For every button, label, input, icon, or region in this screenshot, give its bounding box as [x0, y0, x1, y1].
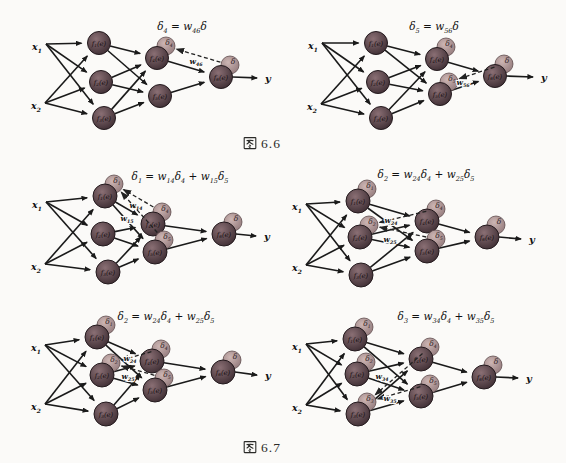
connection-arrow [45, 404, 88, 411]
neuron-label: f1(e) [97, 193, 113, 202]
weight-label: w14 [130, 201, 143, 211]
hanzi-tu-icon [243, 136, 257, 150]
neuron-f6: f6(e)δ [484, 55, 514, 88]
neuron-label: f5(e) [413, 393, 429, 402]
diagram-delta3-backprop: yf1(e)δ1f2(e)δ2f3(e)δ3f4(e)δ4f5(e)δ5f6(e… [286, 304, 558, 444]
neuron-f1: f1(e)δ1 [346, 180, 376, 213]
connection-arrow [115, 228, 136, 232]
neuron-f2: f2(e) [367, 71, 390, 94]
connection-arrow [306, 265, 343, 272]
scanned-textbook-page: yf1(e)f2(e)f3(e)f4(e)δ4f5(e)f6(e)δw46δ4 … [0, 0, 566, 463]
connection-arrow [448, 62, 478, 71]
connection-arrow [385, 50, 426, 83]
neuron-label: f6(e) [216, 231, 232, 240]
network-diagram-delta4: yf1(e)f2(e)f3(e)f4(e)δ4f5(e)f6(e)δw46δ4 … [14, 4, 276, 134]
neuron-label: f4(e) [144, 358, 160, 367]
weight-label: w24 [124, 354, 137, 364]
input-label-x2: x2 [306, 101, 317, 114]
connection-arrow [306, 344, 347, 400]
neuron-label: f5(e) [147, 249, 163, 258]
connection-arrow [45, 264, 90, 270]
neuron-f6: f6(e)δ [472, 356, 502, 389]
network-diagram-delta5: yf1(e)f2(e)f3(e)f4(e)δ4f5(e)δ5f6(e)δw56δ… [291, 4, 553, 134]
network-diagram-delta1: yf1(e)δ1f2(e)f3(e)f4(e)δ4f5(e)δ5f6(e)δw1… [8, 164, 280, 304]
input-label-x2: x2 [30, 261, 41, 274]
backprop-weight-arrow [177, 49, 221, 62]
connection-arrow [164, 363, 205, 369]
neuron-f2: f2(e)δ2 [345, 353, 375, 386]
connection-arrow [45, 383, 86, 404]
neuron-label: f2(e) [94, 372, 110, 381]
connection-arrow [306, 354, 344, 406]
input-label-x1: x1 [30, 342, 41, 355]
neuron-f3: f3(e) [93, 107, 116, 130]
backprop-weight-arrow [124, 190, 154, 208]
connection-arrow [110, 46, 140, 54]
figure-caption-6-7: 6.7 [197, 440, 327, 456]
diagram-delta4-backprop: yf1(e)f2(e)f3(e)f4(e)δ4f5(e)f6(e)δw46δ4 … [14, 4, 276, 134]
connection-arrow [108, 342, 136, 354]
neuron-f5: f5(e)δ5 [143, 231, 173, 264]
delta-badge-label: δ [231, 57, 236, 66]
delta-badge-label: δ [233, 352, 238, 361]
connection-arrow [306, 341, 337, 344]
delta-badge-label: δ [505, 56, 510, 65]
connection-arrow [119, 259, 138, 267]
neuron-label: f3(e) [96, 115, 112, 124]
neuron-label: f6(e) [479, 234, 495, 243]
input-label-x1: x1 [307, 40, 318, 53]
neuron-label: f1(e) [347, 336, 363, 345]
connection-arrow [117, 398, 139, 409]
neuron-label: f6(e) [215, 369, 231, 378]
input-label-x1: x1 [31, 41, 42, 54]
neuron-f3: f3(e)δ3 [346, 393, 376, 426]
connection-arrow [108, 51, 147, 85]
neuron-label: f5(e) [432, 91, 448, 100]
connection-arrow [306, 204, 350, 261]
connection-arrow [389, 84, 423, 91]
network-diagram-delta3: yf1(e)δ1f2(e)δ2f3(e)δ3f4(e)δ4f5(e)δ5f6(e… [286, 304, 558, 444]
neuron-f2: f2(e) [90, 71, 113, 94]
figure-caption-number: 6.7 [261, 440, 281, 455]
neuron-label: f6(e) [213, 74, 229, 83]
weight-label: w15 [121, 214, 134, 224]
input-label-x1: x1 [291, 341, 302, 354]
neuron-label: f1(e) [368, 40, 384, 49]
neuron-f6: f6(e)δ [212, 213, 242, 246]
output-arrow [496, 377, 518, 378]
neuron-f5: f5(e)δ5 [429, 73, 459, 106]
connection-arrow [389, 65, 421, 77]
output-label: y [264, 73, 272, 84]
neuron-label: f4(e) [149, 55, 165, 64]
neuron-f1: f1(e)δ1 [343, 318, 373, 351]
connection-arrow [306, 405, 340, 411]
neuron-label: f5(e) [147, 387, 163, 396]
input-label-x2: x2 [291, 402, 302, 415]
connection-arrow [322, 43, 364, 72]
connection-arrow [45, 103, 87, 114]
diagram-delta5-backprop: yf1(e)f2(e)f3(e)f4(e)δ4f5(e)δ5f6(e)δw56δ… [291, 4, 553, 134]
neuron-f3: f3(e) [94, 402, 118, 426]
weight-label: w34 [376, 372, 389, 382]
neuron-label: f6(e) [476, 374, 492, 383]
weight-label: w25 [384, 235, 397, 245]
neuron-f4: f4(e)δ4 [409, 338, 439, 371]
connection-arrow [46, 198, 87, 202]
weight-label: w46 [190, 57, 204, 67]
output-label: y [525, 373, 533, 384]
connection-arrow [306, 383, 342, 405]
input-label-x1: x1 [291, 201, 302, 214]
neuron-label: f4(e) [419, 218, 435, 227]
neuron-f2: f2(e)δ2 [348, 216, 378, 249]
connection-arrow [46, 43, 82, 44]
neuron-f1: f1(e)δ1 [85, 316, 115, 349]
figure-caption-number: 6.6 [261, 136, 281, 151]
neuron-label: f5(e) [152, 93, 168, 102]
diagram-title: δ2 = w24δ4 + w25δ5 [118, 310, 215, 325]
weight-label: w56 [457, 78, 471, 88]
output-label: y [540, 72, 548, 83]
connection-arrow [372, 257, 410, 271]
neuron-label: f4(e) [429, 56, 445, 65]
neuron-f6: f6(e)δ [475, 216, 505, 249]
neuron-label: f2(e) [349, 371, 365, 380]
